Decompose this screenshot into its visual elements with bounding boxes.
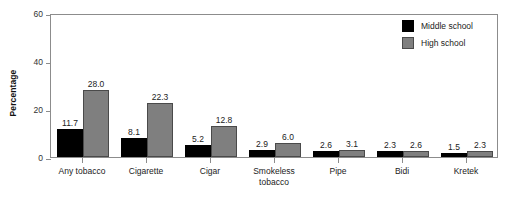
x-axis-tick-mark <box>274 158 275 163</box>
x-axis-category-label: Kretek <box>426 166 506 177</box>
x-axis-tick-mark <box>338 158 339 163</box>
bar-group: 5.212.8 <box>179 15 243 157</box>
bar <box>441 153 467 157</box>
x-axis-tick-mark <box>82 158 83 163</box>
bar-value-label: 2.3 <box>461 140 499 150</box>
bar <box>403 151 429 157</box>
bar <box>121 138 147 157</box>
bar <box>377 151 403 157</box>
bar-group: 8.122.3 <box>115 15 179 157</box>
y-axis-tick-label: 60 <box>34 9 43 19</box>
bar <box>339 150 365 157</box>
bar-value-label: 3.1 <box>333 139 371 149</box>
y-axis-tick-label: 0 <box>38 153 43 163</box>
bar-value-label: 12.8 <box>205 115 243 125</box>
y-axis-tick-label: 40 <box>34 57 43 67</box>
legend-item: Middle school <box>402 20 473 32</box>
bar <box>147 103 173 157</box>
x-axis-tick-mark <box>146 158 147 163</box>
legend-item: High school <box>402 37 473 49</box>
y-axis-title: Percentage <box>2 48 24 138</box>
x-axis-tick-mark <box>402 158 403 163</box>
y-axis-title-label: Percentage <box>8 70 18 117</box>
legend-label: Middle school <box>421 21 473 31</box>
bar <box>211 126 237 157</box>
bar-group: 2.63.1 <box>307 15 371 157</box>
bar <box>185 145 211 157</box>
bar-value-label: 28.0 <box>77 79 115 89</box>
y-axis-tick-mark <box>46 159 51 160</box>
bar <box>249 150 275 157</box>
x-axis-tick-mark <box>210 158 211 163</box>
legend-swatch <box>402 20 414 32</box>
bar <box>83 90 109 157</box>
bar-group: 2.96.0 <box>243 15 307 157</box>
bar-chart: Percentage 0204060 11.728.08.122.35.212.… <box>0 0 521 202</box>
x-axis-tick-mark <box>466 158 467 163</box>
chart-legend: Middle schoolHigh school <box>402 20 473 54</box>
bar <box>313 151 339 157</box>
legend-label: High school <box>421 38 465 48</box>
bar <box>467 151 493 157</box>
bar <box>57 129 83 157</box>
y-axis-tick-label: 20 <box>34 105 43 115</box>
bar-value-label: 22.3 <box>141 92 179 102</box>
bar <box>275 143 301 157</box>
bar-value-label: 2.6 <box>397 140 435 150</box>
bar-value-label: 6.0 <box>269 132 307 142</box>
legend-swatch <box>402 37 414 49</box>
bar-group: 11.728.0 <box>51 15 115 157</box>
